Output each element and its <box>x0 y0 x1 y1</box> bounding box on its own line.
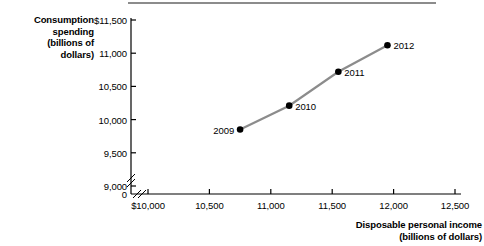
y-tick-label-0: $11,500 <box>94 15 127 26</box>
x-tick-label-4: 12,000 <box>379 200 407 211</box>
y-tick-label-4: 9,500 <box>104 147 127 158</box>
x-tick-label-2: 11,000 <box>257 200 285 211</box>
point-label-2009: 2009 <box>213 124 234 135</box>
point-label-2011: 2011 <box>344 66 364 77</box>
data-point-2011 <box>335 68 342 75</box>
point-label-2010: 2010 <box>295 100 316 111</box>
x-tick-label-5: 12,500 <box>441 200 469 211</box>
x-tick-label-1: 10,500 <box>195 200 223 211</box>
x-tick-label-0: $10,000 <box>131 200 165 211</box>
data-point-2009 <box>237 126 244 133</box>
x-tick-label-3: 11,500 <box>318 200 346 211</box>
data-point-2010 <box>286 102 293 109</box>
point-label-2012: 2012 <box>393 40 414 51</box>
y-tick-label-2: 10,500 <box>99 81 127 92</box>
y-tick-label-3: 10,000 <box>99 114 127 125</box>
series-line <box>240 45 387 129</box>
y-tick-label-1: 11,000 <box>99 48 127 59</box>
chart-figure: Consumptionspending(billions ofdollars) … <box>0 0 484 246</box>
y-tick-label-6: 0 <box>122 189 127 200</box>
trend-line <box>240 45 387 129</box>
data-point-2012 <box>384 42 391 49</box>
plot-axes <box>0 0 484 246</box>
